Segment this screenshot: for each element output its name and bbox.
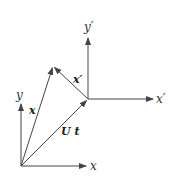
y-prime-axis-label: y′ [83, 20, 94, 34]
position-vector-x-prime [55, 67, 89, 99]
position-vector-x [21, 68, 52, 166]
vectors: x U t x′ [21, 67, 88, 166]
vector-ut-label: U t [61, 125, 80, 138]
vector-x-prime-label: x′ [72, 73, 83, 86]
x-axis-label: x [90, 159, 97, 173]
moving-frame: x′ y′ [83, 20, 166, 106]
y-axis-label: y [15, 88, 23, 102]
frame-transformation-diagram: x y x′ y′ x U t x′ [0, 0, 180, 181]
vector-x-label: x [28, 104, 36, 117]
x-prime-axis-label: x′ [156, 92, 166, 106]
